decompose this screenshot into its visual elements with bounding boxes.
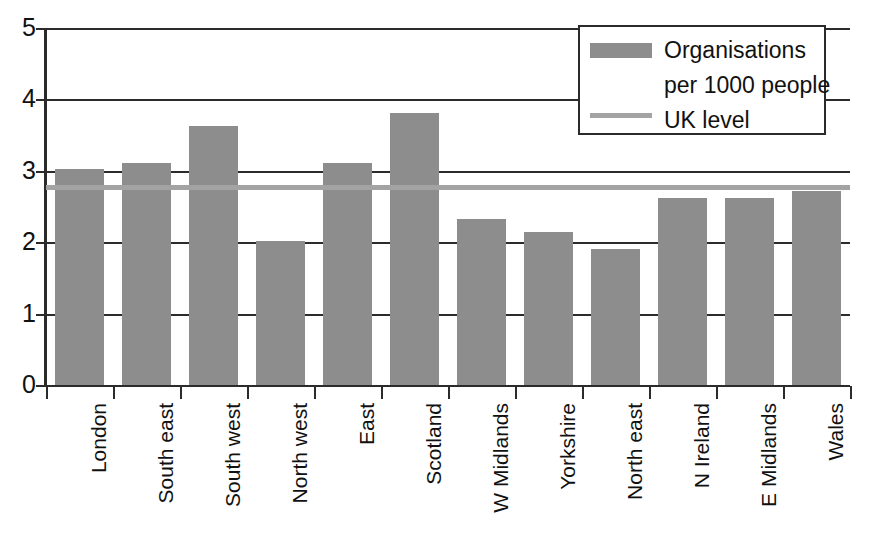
x-axis-category-label: N Ireland [691,403,712,488]
legend-swatch-uk-level [590,113,652,118]
bar [256,241,304,385]
y-axis-tick [36,171,47,173]
x-axis-tick [113,386,115,399]
y-axis-tick-label: 5 [0,15,36,40]
y-axis-tick-label: 3 [0,158,36,183]
x-axis-tick [381,386,383,399]
legend-label-uk-level: UK level [664,109,750,132]
x-axis-category-label: Yorkshire [557,403,578,490]
x-axis-tick [783,386,785,399]
x-axis-category-label: London [88,403,109,473]
y-axis-tick [36,314,47,316]
x-axis-tick [716,386,718,399]
bar [390,113,438,385]
x-axis-tick [850,386,852,399]
x-axis-tick [582,386,584,399]
y-axis-tick-label: 1 [0,301,36,326]
y-axis-line [44,28,47,387]
x-axis-category-label: South west [222,403,243,507]
legend-swatch-organisations [590,43,652,58]
x-axis-tick [448,386,450,399]
bar [792,191,840,385]
x-axis-tick [247,386,249,399]
x-axis-category-label: South east [155,403,176,503]
y-axis-tick [36,28,47,30]
y-axis-tick [36,99,47,101]
x-axis-tick [649,386,651,399]
bar [55,169,103,385]
bar [323,163,371,385]
x-axis-category-label: East [356,403,377,445]
x-axis-tick [46,386,48,399]
bar [658,198,706,385]
bar [189,126,237,385]
legend-label-organisations-line1: Organisations [664,39,806,62]
y-axis-tick-label: 2 [0,229,36,254]
bar [524,232,572,385]
x-axis-tick [515,386,517,399]
legend-label-organisations-line2: per 1000 people [664,74,830,97]
bar [457,219,505,385]
legend: Organisations per 1000 people UK level [578,25,826,135]
uk-level-reference-line [46,185,850,190]
x-axis-category-label: North east [624,403,645,500]
x-axis-category-label: Scotland [423,403,444,485]
x-axis-category-label: E Midlands [758,403,779,507]
bar-chart: 012345 LondonSouth eastSouth westNorth w… [0,0,875,541]
x-axis-tick [314,386,316,399]
bar [591,249,639,385]
bar [122,163,170,385]
y-axis-tick-label: 4 [0,86,36,111]
y-axis-tick-label: 0 [0,372,36,397]
x-axis-category-label: W Midlands [490,403,511,513]
x-axis-category-label: North west [289,403,310,503]
x-axis-tick [180,386,182,399]
y-axis-tick [36,242,47,244]
bar [725,198,773,385]
x-axis-category-label: Wales [825,403,846,461]
